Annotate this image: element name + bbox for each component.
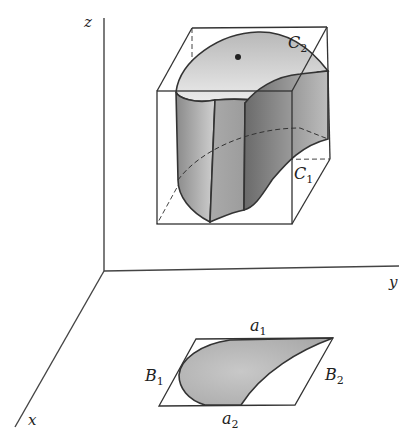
z-axis-label: z: [83, 13, 92, 31]
b1-label: B1: [144, 366, 164, 388]
a1-label: a1: [250, 316, 267, 338]
base-region: [179, 338, 333, 405]
c2-label: C2: [288, 33, 307, 55]
left-curved-face: [176, 92, 215, 222]
a2-label: a2: [222, 409, 239, 431]
c1-label: C1: [294, 164, 313, 186]
right-curved-face: [244, 71, 328, 210]
y-axis: [104, 266, 399, 271]
y-axis-label: y: [388, 273, 398, 291]
3d-volume-diagram: z y x C2 C1 a1 a2 B1: [0, 0, 416, 446]
x-axis: [15, 271, 104, 427]
x-axis-label: x: [28, 411, 37, 429]
surface-point: [235, 54, 241, 60]
b2-label: B2: [324, 365, 344, 387]
